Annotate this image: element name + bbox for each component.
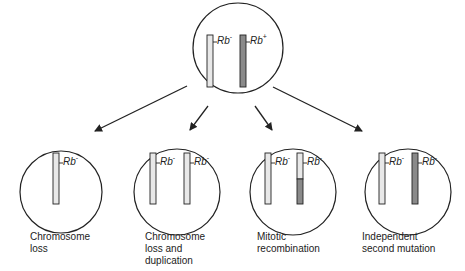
gene-label: Rb- (422, 156, 437, 167)
gene-label: Rb- (275, 156, 290, 167)
gene-label: Rb- (389, 156, 404, 167)
gene-label: Rb- (160, 156, 175, 167)
arrow-to-chromosome-loss (95, 86, 187, 131)
caption-second-mutation: Independent second mutation (362, 231, 435, 255)
parent-cell (193, 3, 283, 93)
cell-chromosome-loss (20, 151, 102, 233)
gene-label: Rb- (307, 156, 322, 167)
arrow-to-mitotic-recombination (255, 106, 272, 130)
gene-label: Rb- (194, 156, 209, 167)
caption-loss-and-duplication: Chromosome loss and duplication (145, 231, 205, 267)
arrow-to-second-mutation (273, 87, 362, 131)
cell-second-mutation (365, 149, 451, 235)
gene-label-rb-minus: Rb- (217, 35, 232, 46)
arrow-to-loss-duplication (190, 106, 208, 130)
chromosome-rb-minus (207, 35, 213, 87)
chromosome-rb-plus (240, 35, 246, 87)
cell-mitotic-recombination (250, 149, 336, 235)
caption-chromosome-loss: Chromosome loss (30, 231, 90, 255)
caption-mitotic-recombination: Mitotic recombination (257, 231, 320, 255)
gene-label: Rb- (63, 156, 78, 167)
gene-label-rb-plus: Rb+ (250, 35, 267, 46)
